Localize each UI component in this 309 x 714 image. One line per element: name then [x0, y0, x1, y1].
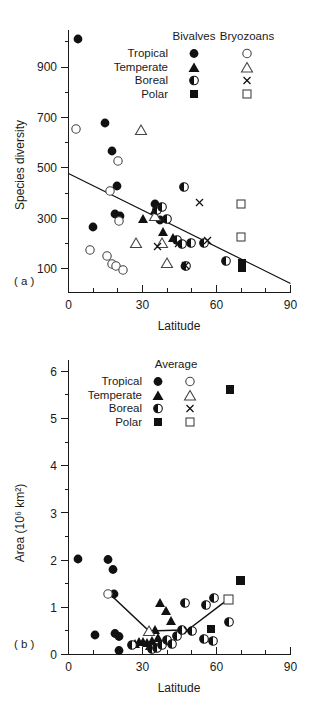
panel-b-ytick-0: 0 — [50, 648, 57, 662]
panel-b-area: 0 30 60 90 0 1 2 3 4 5 6 Latitude Area (… — [0, 348, 309, 714]
legend-icon-open-triangle — [242, 63, 253, 73]
panel-b-ytick-5: 5 — [50, 412, 57, 426]
legend-row-tropical-label: Tropical — [128, 47, 168, 59]
series-polar-bivalves — [238, 259, 246, 272]
legend-icon-open-circle — [186, 377, 194, 385]
legend-row-boreal-label: Boreal — [109, 402, 142, 414]
series-tropical-bryozoans — [72, 125, 127, 274]
panel-a-x-ticks — [69, 285, 291, 293]
panel-b-ytick-2: 2 — [50, 554, 57, 568]
panel-b-axes — [68, 360, 290, 655]
series-boreal-bivalves — [153, 183, 231, 271]
panel-a-xtick-30: 30 — [136, 298, 150, 312]
panel-a-trendline — [69, 174, 291, 284]
panel-a-xtick-0: 0 — [65, 298, 72, 312]
panel-a-legend: Bivalves Bryozoans Tropical Temperate Bo… — [114, 30, 275, 100]
panel-b-xtick-30: 30 — [136, 660, 150, 674]
legend-row-temperate-label: Temperate — [88, 389, 142, 401]
panel-b-plot: 0 30 60 90 0 1 2 3 4 5 6 Latitude Area (… — [0, 348, 309, 714]
legend-icon-filled-triangle — [189, 63, 200, 73]
panel-a-xtick-60: 60 — [210, 298, 224, 312]
legend-icon-open-triangle — [185, 391, 196, 401]
legend-icon-open-square — [186, 418, 194, 426]
legend-row-polar-label: Polar — [115, 416, 142, 428]
panel-a-species-diversity: 0 30 60 90 100 300 500 700 900 Latitude … — [0, 0, 309, 348]
legend-icon-filled-square — [154, 418, 162, 426]
series-polar-average — [224, 595, 233, 604]
panel-a-ytick-900: 900 — [37, 60, 57, 74]
panel-b-ytick-6: 6 — [50, 365, 57, 379]
panel-a-label: ( a ) — [14, 275, 35, 287]
legend-icon-half-circle — [154, 404, 163, 413]
legend-icon-open-square — [243, 90, 251, 98]
panel-b-x-axis-title: Latitude — [158, 681, 201, 695]
panel-a-ytick-500: 500 — [37, 161, 57, 175]
legend-icon-x-mark — [187, 405, 194, 412]
panel-b-label: ( b ) — [14, 638, 35, 650]
panel-b-y-ticks — [61, 371, 69, 654]
panel-a-ytick-700: 700 — [37, 111, 57, 125]
panel-a-ytick-300: 300 — [37, 212, 57, 226]
panel-b-legend: Average Tropical Temperate Boreal Polar — [88, 358, 198, 428]
panel-a-plot: 0 30 60 90 100 300 500 700 900 Latitude … — [0, 0, 309, 348]
panel-a-axes — [68, 30, 290, 293]
panel-b-xtick-90: 90 — [284, 660, 298, 674]
legend-icon-filled-square — [190, 90, 198, 98]
panel-a-xtick-90: 90 — [284, 298, 298, 312]
series-polar-bryozoans — [237, 200, 245, 241]
panel-b-y-axis-title: Area (10⁶ km²) — [13, 484, 27, 562]
panel-a-x-axis-title: Latitude — [158, 319, 201, 333]
legend-header-bivalves: Bivalves — [173, 30, 216, 42]
legend-row-tropical-label: Tropical — [102, 375, 142, 387]
panel-b-xtick-0: 0 — [65, 660, 72, 674]
legend-row-boreal-label: Boreal — [135, 74, 168, 86]
legend-row-temperate-label: Temperate — [114, 61, 168, 73]
panel-a-y-axis-title: Species diversity — [13, 120, 27, 210]
legend-icon-open-circle — [243, 49, 251, 57]
panel-b-ytick-4: 4 — [50, 459, 57, 473]
legend-icon-filled-circle — [154, 377, 163, 386]
series-tropical-average — [104, 590, 112, 598]
panel-a-ytick-100: 100 — [37, 262, 57, 276]
panel-b-xtick-60: 60 — [210, 660, 224, 674]
panel-b-ytick-3: 3 — [50, 507, 57, 521]
panel-b-x-ticks — [69, 647, 291, 655]
legend-icon-half-circle — [190, 76, 199, 85]
legend-icon-x-mark — [244, 77, 251, 84]
legend-row-polar-label: Polar — [141, 88, 168, 100]
scientific-figure: 0 30 60 90 100 300 500 700 900 Latitude … — [0, 0, 309, 714]
legend-header-average: Average — [155, 358, 198, 370]
panel-a-y-ticks — [61, 42, 69, 269]
legend-icon-filled-circle — [190, 49, 199, 58]
legend-header-bryozoans: Bryozoans — [220, 30, 275, 42]
legend-icon-filled-triangle — [153, 391, 164, 401]
series-temperate-bryozoans — [131, 125, 173, 268]
series-tropical — [74, 555, 124, 655]
panel-b-ytick-1: 1 — [50, 601, 57, 615]
